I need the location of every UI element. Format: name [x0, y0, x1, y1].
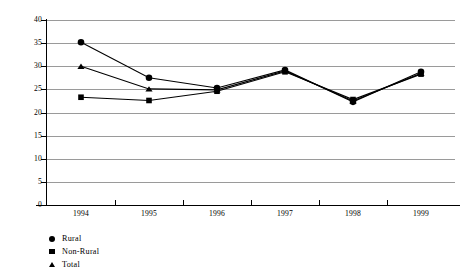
- gridline: [47, 43, 455, 44]
- y-axis-line: [46, 19, 47, 206]
- y-axis-tick-label: 10: [4, 154, 42, 163]
- x-axis-line: [36, 205, 460, 206]
- line-chart-figure: 0510152025303540 19941995199619971998199…: [0, 0, 471, 273]
- x-axis-tick-label: 1994: [73, 209, 89, 218]
- square-marker-icon: [44, 249, 60, 254]
- gridline: [47, 20, 455, 21]
- y-axis-tick-label: 5: [4, 177, 42, 186]
- gridline: [47, 89, 455, 90]
- y-axis-tick-label: 40: [4, 15, 42, 24]
- chart-legend: Rural Non-Rural Total: [44, 232, 204, 271]
- y-axis-labels-group: 0510152025303540: [0, 0, 42, 273]
- x-axis-tick-label: 1995: [141, 209, 157, 218]
- y-axis-tick-label: 25: [4, 84, 42, 93]
- y-axis-tick-label: 35: [4, 38, 42, 47]
- gridline: [47, 136, 455, 137]
- x-axis-tick-mark: [319, 200, 320, 206]
- x-axis-tick-label: 1999: [413, 209, 429, 218]
- x-axis-tick-label: 1996: [209, 209, 225, 218]
- x-axis-tick-label: 1997: [277, 209, 293, 218]
- legend-item-non-rural: Non-Rural: [44, 245, 204, 258]
- triangle-marker-icon: [44, 262, 60, 267]
- gridline: [47, 182, 455, 183]
- legend-item-label: Non-Rural: [62, 247, 99, 256]
- x-axis-tick-mark: [183, 200, 184, 206]
- y-axis-tick-label: 15: [4, 131, 42, 140]
- legend-item-label: Rural: [62, 234, 81, 243]
- circle-marker-icon: [44, 236, 60, 242]
- x-axis-tick-mark: [387, 200, 388, 206]
- gridline: [47, 113, 455, 114]
- gridline: [47, 66, 455, 67]
- x-axis-tick-mark: [115, 200, 116, 206]
- legend-item-rural: Rural: [44, 232, 204, 245]
- legend-item-label: Total: [62, 260, 80, 269]
- x-axis-tick-label: 1998: [345, 209, 361, 218]
- y-axis-tick-label: 30: [4, 61, 42, 70]
- legend-item-total: Total: [44, 258, 204, 271]
- gridline: [47, 159, 455, 160]
- y-axis-tick-label: 20: [4, 108, 42, 117]
- x-axis-tick-mark: [251, 200, 252, 206]
